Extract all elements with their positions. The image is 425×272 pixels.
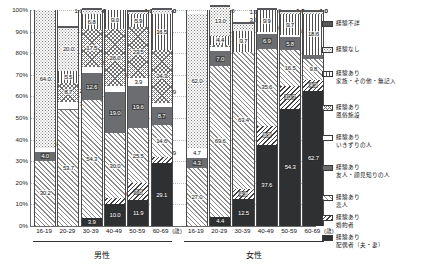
stacked-bar[interactable]: 10.030.019.026.09.0 (104, 10, 126, 226)
bar-segment-fushou[interactable] (210, 5, 230, 7)
bar-segment-yujin[interactable]: 5.8 (280, 37, 300, 50)
legend-item[interactable]: 経験あり 友人・顔見知りの人 (322, 164, 390, 179)
bar-segment-kazoku[interactable]: 9.7 (280, 14, 300, 35)
bar-segment-konyaku[interactable] (105, 198, 125, 204)
bar-segment-nashi[interactable] (128, 12, 148, 14)
stacked-bar[interactable]: 30.24.064.0 (34, 10, 56, 226)
bar-segment-fushou[interactable] (58, 26, 78, 28)
legend-item[interactable]: 経験あり 家族・その他・無記入 (322, 70, 396, 85)
bar-segment-fushou[interactable] (152, 8, 172, 10)
bar-segment-nashi[interactable]: 20.0 (58, 28, 78, 71)
bar-segment-ikizuri[interactable] (58, 102, 78, 109)
bar-segment-kazoku[interactable]: 4.4 (210, 36, 230, 46)
bar-segment-fushou[interactable] (257, 8, 277, 10)
bar-segment-fuzoku[interactable]: 8.7 (58, 83, 78, 102)
bar-segment-kazoku[interactable]: 16.5 (152, 14, 172, 50)
bar-segment-fushou[interactable] (128, 10, 148, 12)
bar-segment-yujin[interactable]: 4.3 (187, 158, 207, 167)
bar-segment-kazoku[interactable]: 5.9 (128, 14, 148, 27)
legend-item[interactable]: 経験あり 婚約者 (322, 214, 360, 229)
bar-segment-ikizuri[interactable] (152, 103, 172, 107)
bar-segment-konyaku[interactable]: 8.9 (257, 126, 277, 145)
bar-segment-haigusha[interactable]: 10.0 (105, 204, 125, 226)
bar-segment-ikizuri[interactable] (82, 67, 102, 73)
bar-segment-koibito[interactable]: 53.7 (58, 110, 78, 226)
bar-segment-fuzoku[interactable]: 17.5 (82, 29, 102, 67)
bar-segment-kazoku[interactable]: 9.0 (105, 10, 125, 29)
bar-segment-haigusha[interactable]: 54.3 (280, 109, 300, 226)
bar-segment-koibito[interactable]: 16.5 (280, 50, 300, 86)
bar-segment-fuzoku[interactable]: 26.0 (105, 29, 125, 85)
bar-segment-konyaku[interactable]: 4.9 (303, 80, 323, 91)
bar-segment-kazoku[interactable]: 6.8 (82, 14, 102, 29)
bar-segment-ikizuri[interactable] (257, 32, 277, 34)
bar-segment-haigusha[interactable]: 37.6 (257, 145, 277, 226)
bar-segment-ikizuri[interactable]: 4.7 (187, 148, 207, 158)
legend-item[interactable]: 経験あり 配偶者（夫・妻） (322, 234, 384, 249)
bar-segment-kazoku[interactable]: 9.7 (233, 31, 253, 52)
bar-segment-konyaku[interactable] (152, 157, 172, 163)
bar-segment-konyaku[interactable]: 4.8 (233, 189, 253, 199)
bar-segment-yujin[interactable]: 8.7 (152, 107, 172, 126)
stacked-bar[interactable]: 54.310.716.55.89.7 (279, 10, 301, 226)
bar-segment-kazoku[interactable]: 9.9 (257, 10, 277, 31)
bar-segment-fuzoku[interactable] (210, 45, 230, 47)
bar-segment-ikizuri[interactable] (105, 86, 125, 92)
bar-segment-nashi[interactable] (82, 10, 102, 14)
bar-segment-yujin[interactable] (303, 55, 323, 59)
bar-segment-yujin[interactable]: 19.0 (105, 92, 125, 133)
bar-segment-haigusha[interactable]: 11.9 (128, 200, 148, 226)
bar-segment-ikizuri[interactable] (280, 35, 300, 37)
bar-segment-yujin[interactable]: 7.0 (210, 51, 230, 66)
bar-segment-koibito[interactable]: 27.0 (187, 168, 207, 226)
bar-segment-haigusha[interactable]: 12.5 (233, 199, 253, 226)
bar-segment-ikizuri[interactable]: 3.9 (128, 78, 148, 86)
bar-segment-yujin[interactable]: 12.6 (82, 73, 102, 100)
bar-segment-haigusha[interactable]: 62.7 (303, 91, 323, 226)
legend-item[interactable]: 経験なし (322, 46, 360, 54)
stacked-bar[interactable]: 53.78.75.520.0 (57, 10, 79, 226)
bar-segment-koibito[interactable]: 63.4 (233, 52, 253, 189)
bar-segment-nashi[interactable]: 64.0 (35, 10, 55, 148)
stacked-bar[interactable]: 37.68.935.66.99.9 (256, 10, 278, 226)
stacked-bar[interactable]: 29.114.68.724.316.5 (151, 10, 173, 226)
stacked-bar[interactable]: 3.954.312.617.56.8 (81, 10, 103, 226)
legend-item[interactable]: 経験あり 恋人 (322, 194, 360, 209)
bar-segment-nashi[interactable] (280, 12, 300, 14)
bar-segment-fushou[interactable] (82, 8, 102, 10)
bar-segment-ikizuri[interactable] (35, 148, 55, 152)
legend-item[interactable]: 経験あり いきずりの人 (322, 134, 372, 149)
bar-segment-konyaku[interactable]: 10.7 (280, 86, 300, 109)
bar-segment-fushou[interactable] (233, 22, 253, 24)
bar-segment-koibito[interactable]: 54.3 (82, 100, 102, 217)
bar-segment-fuzoku[interactable]: 23.5 (128, 27, 148, 78)
bar-segment-fuzoku[interactable]: 24.3 (152, 50, 172, 102)
bar-segment-koibito[interactable]: 14.6 (152, 125, 172, 157)
bar-segment-koibito[interactable]: 9.8 (303, 59, 323, 80)
bar-segment-nashi[interactable] (303, 12, 323, 14)
bar-segment-fushou[interactable] (303, 10, 323, 12)
bar-segment-koibito[interactable]: 30.2 (35, 161, 55, 226)
stacked-bar[interactable]: 4.469.67.04.413.0 (209, 10, 231, 226)
bar-segment-haigusha[interactable]: 29.1 (152, 163, 172, 226)
bar-segment-nashi[interactable] (233, 24, 253, 30)
legend-item[interactable]: 経験あり 風俗施設 (322, 104, 360, 119)
bar-segment-yujin[interactable] (58, 109, 78, 111)
bar-segment-kazoku[interactable]: 5.5 (58, 71, 78, 83)
bar-segment-koibito[interactable]: 35.6 (257, 49, 277, 126)
bar-segment-kazoku[interactable]: 18.6 (303, 14, 323, 54)
bar-segment-nashi[interactable]: 13.0 (210, 7, 230, 35)
bar-segment-koibito[interactable]: 25.5 (128, 128, 148, 183)
bar-segment-haigusha[interactable]: 3.9 (82, 218, 102, 226)
bar-segment-yujin[interactable]: 6.9 (257, 34, 277, 49)
stacked-bar[interactable]: 12.54.863.49.7 (232, 10, 254, 226)
bar-segment-nashi[interactable]: 62.0 (187, 14, 207, 148)
legend-item[interactable]: 経験不詳 (322, 20, 360, 28)
bar-segment-ikizuri[interactable] (210, 47, 230, 51)
bar-segment-koibito[interactable]: 30.0 (105, 133, 125, 198)
bar-segment-yujin[interactable]: 19.6 (128, 86, 148, 128)
bar-segment-haigusha[interactable]: 4.4 (210, 217, 230, 227)
bar-segment-fushou[interactable] (280, 10, 300, 12)
stacked-bar[interactable]: 27.04.34.762.0 (186, 10, 208, 226)
bar-segment-yujin[interactable]: 4.0 (35, 152, 55, 161)
